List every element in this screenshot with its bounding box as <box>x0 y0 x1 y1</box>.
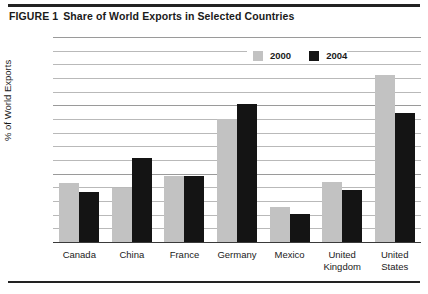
x-axis-baseline <box>53 242 421 244</box>
bar-germany-2004 <box>237 104 257 243</box>
legend-item-2004: 2004 <box>309 50 347 61</box>
bar-france-2004 <box>184 176 204 243</box>
category-label-united-states: United States <box>368 249 421 272</box>
bar-united-states-2000 <box>375 75 395 243</box>
legend-swatch-2004 <box>309 51 319 61</box>
figure-bottom-rule <box>8 281 420 283</box>
legend-label-2004: 2004 <box>326 50 347 61</box>
bar-germany-2000 <box>217 119 237 243</box>
category-label-germany: Germany <box>211 249 264 261</box>
category-label-canada: Canada <box>53 249 106 261</box>
bar-mexico-2000 <box>270 207 290 243</box>
bar-group-china <box>112 38 152 243</box>
category-label-mexico: Mexico <box>263 249 316 261</box>
bar-united-states-2004 <box>395 113 415 243</box>
figure-title-text: Share of World Exports in Selected Count… <box>63 10 294 22</box>
bar-canada-2004 <box>79 192 99 243</box>
chart-legend: 20002004 <box>247 49 347 62</box>
category-label-united-kingdom: United Kingdom <box>316 249 369 272</box>
legend-item-2000: 2000 <box>253 50 291 61</box>
legend-swatch-2000 <box>253 51 263 61</box>
bar-united-kingdom-2004 <box>342 190 362 243</box>
bar-group-germany <box>217 38 257 243</box>
y-axis-label: % of World Exports <box>2 60 13 141</box>
bar-series-group <box>53 38 421 243</box>
bar-group-united-kingdom <box>322 38 362 243</box>
figure-top-rule <box>8 4 420 7</box>
bar-china-2000 <box>112 188 132 243</box>
bar-china-2004 <box>132 158 152 243</box>
category-label-china: China <box>106 249 159 261</box>
bar-canada-2000 <box>59 183 79 243</box>
bar-group-united-states <box>375 38 415 243</box>
plot-area: 051015 <box>53 38 421 243</box>
category-label-france: France <box>158 249 211 261</box>
figure-number: FIGURE 1 <box>9 10 58 22</box>
bar-group-mexico <box>270 38 310 243</box>
bar-group-canada <box>59 38 99 243</box>
bar-mexico-2004 <box>290 214 310 243</box>
legend-label-2000: 2000 <box>270 50 291 61</box>
bar-united-kingdom-2000 <box>322 182 342 244</box>
bar-france-2000 <box>164 176 184 243</box>
bar-group-france <box>164 38 204 243</box>
figure-title: FIGURE 1Share of World Exports in Select… <box>9 10 294 22</box>
figure-container: FIGURE 1Share of World Exports in Select… <box>0 0 428 294</box>
